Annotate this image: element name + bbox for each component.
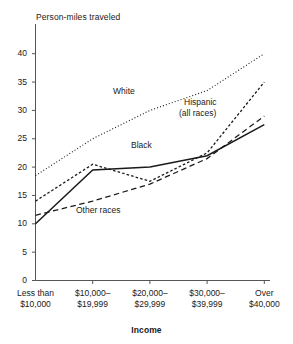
x-axis-title: Income [0,325,293,335]
series-label-white: White [113,86,135,97]
y-axis-ticks [32,54,36,281]
y-tick-label: 20 [5,162,27,172]
x-tick-label: Over$40,000 [229,288,293,309]
series-label-hispanic-line1: Hispanic [184,97,217,108]
y-tick-label: 10 [5,218,27,228]
y-tick-label: 25 [5,133,27,143]
series-label-hispanic-line2: (all races) [179,108,216,119]
chart-figure: Person-miles traveled 0510152025303540 L… [0,0,293,344]
series-label-black: Black [131,140,152,151]
y-tick-label: 35 [5,77,27,87]
x-tick-label-line: Over [229,288,293,299]
axis-lines [36,24,271,281]
y-tick-label: 30 [5,105,27,115]
y-tick-label: 0 [5,275,27,285]
series-label-other-races: Other races [76,205,120,216]
x-tick-label-line: $40,000 [229,299,293,310]
series-line-white [36,54,265,176]
x-axis-ticks [93,281,265,285]
y-tick-label: 5 [5,247,27,257]
y-tick-label: 15 [5,190,27,200]
y-tick-label: 40 [5,48,27,58]
series-line-other-races [36,116,265,215]
series-paths [36,54,265,224]
